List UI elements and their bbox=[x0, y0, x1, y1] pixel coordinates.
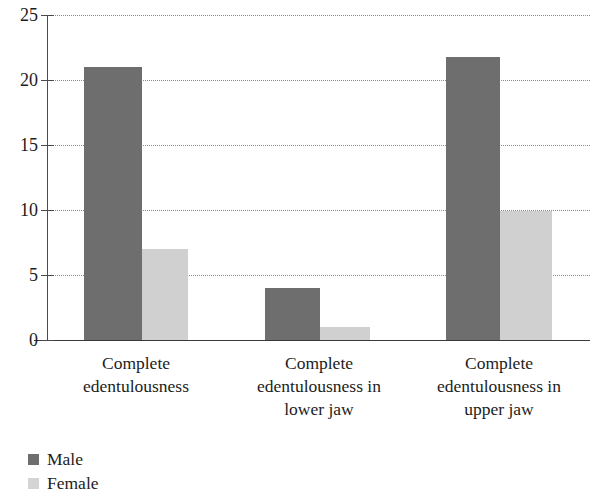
bar-group-1 bbox=[84, 0, 188, 340]
legend-item-female: Female bbox=[28, 472, 99, 493]
category-label-3-line-3: upper jaw bbox=[416, 398, 582, 421]
bars-layer bbox=[0, 0, 597, 340]
y-tick-0 bbox=[41, 340, 54, 341]
legend-label-male: Male bbox=[47, 450, 83, 469]
legend-label-female: Female bbox=[47, 474, 99, 493]
category-label-3-line-1: Complete bbox=[416, 352, 582, 375]
category-label-3-line-2: edentulousness in bbox=[416, 375, 582, 398]
category-label-1-line-2: edentulousness bbox=[56, 375, 216, 398]
bar-female-3 bbox=[500, 211, 552, 340]
legend-item-male: Male bbox=[28, 448, 99, 470]
category-label-2: Complete edentulousness in lower jaw bbox=[236, 352, 402, 421]
category-label-1-line-1: Complete bbox=[56, 352, 216, 375]
bar-male-2 bbox=[265, 288, 320, 340]
bar-group-2 bbox=[265, 0, 370, 340]
category-label-1: Complete edentulousness bbox=[56, 352, 216, 398]
bar-female-1 bbox=[142, 249, 188, 340]
category-label-2-line-1: Complete bbox=[236, 352, 402, 375]
bar-chart: 25 20 15 10 5 0 Complete edentulous bbox=[0, 0, 597, 493]
category-label-2-line-3: lower jaw bbox=[236, 398, 402, 421]
bar-male-1 bbox=[84, 67, 142, 340]
bar-male-3 bbox=[446, 57, 500, 340]
legend: Male Female bbox=[28, 448, 99, 493]
legend-swatch-female-icon bbox=[28, 478, 39, 489]
bar-female-2 bbox=[320, 327, 370, 340]
category-label-2-line-2: edentulousness in bbox=[236, 375, 402, 398]
legend-swatch-male-icon bbox=[28, 454, 39, 465]
x-axis-line bbox=[34, 340, 590, 341]
bar-group-3 bbox=[446, 0, 552, 340]
category-label-3: Complete edentulousness in upper jaw bbox=[416, 352, 582, 421]
